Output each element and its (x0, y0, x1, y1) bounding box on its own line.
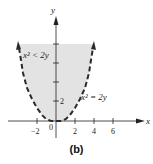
x-axis-label: x (145, 116, 150, 126)
origin-label: 0 (49, 123, 53, 132)
x-tick-label-2: 2 (73, 127, 77, 136)
y-tick-label-2: 2 (60, 97, 64, 106)
x-tick-label-neg2: −2 (31, 127, 40, 136)
inequality-graph: y x −2 0 2 4 6 2 x² < 2y x² = 2y (0, 0, 153, 164)
x-tick-label-4: 4 (92, 127, 96, 136)
x-axis-arrow-icon (136, 119, 145, 124)
inequality-label: x² < 2y (22, 50, 49, 60)
figure-caption: (b) (0, 143, 153, 155)
x-tick-label-6: 6 (111, 127, 115, 136)
y-axis-arrow-icon (54, 16, 59, 25)
equation-label: x² = 2y (80, 92, 107, 102)
y-axis-label: y (50, 5, 55, 15)
